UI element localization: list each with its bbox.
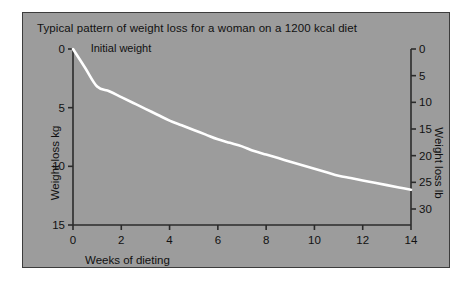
y-tick-label-right: 15 — [419, 123, 432, 135]
data-series-line — [73, 49, 411, 190]
y-axis-label-right: Weight loss lb — [433, 127, 445, 198]
x-tick-label: 8 — [263, 234, 269, 246]
x-tick-label: 0 — [70, 234, 76, 246]
y-tick-label-right: 20 — [419, 150, 432, 162]
x-tick-label: 4 — [166, 234, 172, 246]
plot-area — [23, 13, 451, 269]
y-tick-label-right: 0 — [419, 43, 425, 55]
y-tick-label-left: 0 — [59, 43, 65, 55]
x-tick-label: 12 — [356, 234, 369, 246]
y-tick-label-right: 30 — [419, 203, 432, 215]
y-tick-label-left: 5 — [59, 102, 65, 114]
x-tick-label: 14 — [405, 234, 418, 246]
y-axis-label-left: Weight loss kg — [49, 126, 61, 201]
y-tick-label-left: 15 — [52, 219, 65, 231]
chart-figure: Typical pattern of weight loss for a wom… — [0, 0, 473, 284]
y-tick-label-right: 10 — [419, 96, 432, 108]
x-axis-label: Weeks of dieting — [85, 254, 170, 266]
y-tick-label-right: 25 — [419, 176, 432, 188]
x-tick-label: 10 — [308, 234, 321, 246]
axes-group — [73, 49, 411, 225]
axis-ticks — [68, 49, 416, 230]
x-tick-label: 6 — [215, 234, 221, 246]
chart-panel: Typical pattern of weight loss for a wom… — [22, 12, 450, 268]
y-tick-label-right: 5 — [419, 70, 425, 82]
x-tick-label: 2 — [118, 234, 124, 246]
